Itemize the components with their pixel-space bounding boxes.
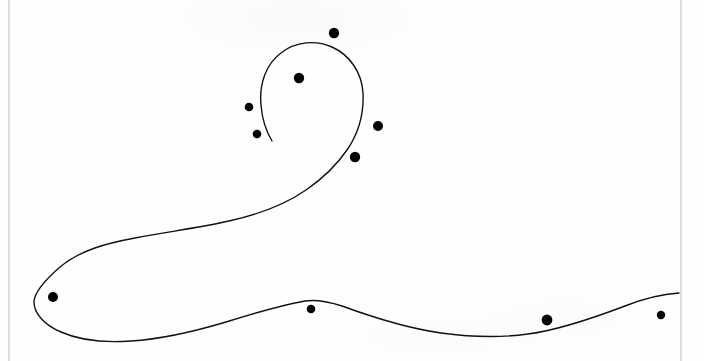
point-9	[542, 315, 553, 326]
point-3	[245, 103, 254, 112]
point-1	[329, 28, 339, 38]
point-5	[373, 121, 383, 131]
figure-canvas	[0, 0, 704, 361]
spiral-stroke	[34, 43, 679, 342]
spiral-figure	[0, 0, 704, 361]
point-8	[307, 305, 316, 314]
point-2	[294, 73, 304, 83]
point-10	[657, 311, 665, 319]
point-7	[48, 292, 58, 302]
point-4	[253, 130, 262, 139]
point-6	[350, 152, 360, 162]
